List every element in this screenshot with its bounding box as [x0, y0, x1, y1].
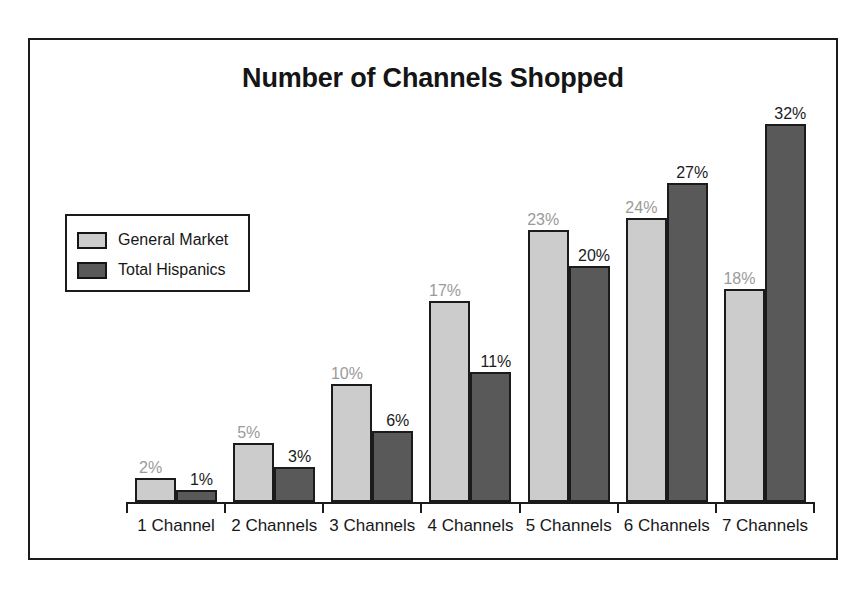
x-axis-label: 7 Channels — [716, 516, 814, 542]
bar[interactable] — [569, 266, 610, 502]
x-axis-label: 6 Channels — [618, 516, 716, 542]
bar-item[interactable]: 32% — [765, 80, 806, 502]
bar[interactable] — [667, 183, 708, 502]
bar-item[interactable]: 1% — [176, 80, 217, 502]
x-axis-line — [127, 502, 814, 504]
axis-tick — [224, 502, 226, 513]
bar-group: 10%6% — [323, 80, 421, 502]
axis-tick — [813, 502, 815, 513]
bar[interactable] — [372, 431, 413, 502]
bar-group: 17%11% — [421, 80, 519, 502]
bar-item[interactable]: 3% — [274, 80, 315, 502]
bar[interactable] — [626, 218, 667, 502]
bar[interactable] — [470, 372, 511, 502]
bar-group: 5%3% — [225, 80, 323, 502]
x-axis-label: 1 Channel — [127, 516, 225, 542]
bar-item[interactable]: 10% — [331, 80, 372, 502]
bar[interactable] — [176, 490, 217, 502]
chart-page: Number of Channels Shopped General Marke… — [0, 0, 867, 594]
axis-tick — [715, 502, 717, 513]
axis-tick — [519, 502, 521, 513]
bar-item[interactable]: 11% — [470, 80, 511, 502]
legend-swatch-total-hispanics — [77, 262, 107, 279]
bar[interactable] — [528, 230, 569, 502]
bar-item[interactable]: 6% — [372, 80, 413, 502]
bar[interactable] — [331, 384, 372, 502]
x-axis-label: 3 Channels — [323, 516, 421, 542]
bar-group: 23%20% — [520, 80, 618, 502]
bar[interactable] — [765, 124, 806, 502]
bar[interactable] — [429, 301, 470, 502]
bar-item[interactable]: 24% — [626, 80, 667, 502]
bar-item[interactable]: 17% — [429, 80, 470, 502]
x-axis — [127, 502, 814, 503]
x-axis-label: 4 Channels — [421, 516, 519, 542]
bar-group: 18%32% — [716, 80, 814, 502]
x-axis-label: 5 Channels — [520, 516, 618, 542]
bar-item[interactable]: 23% — [528, 80, 569, 502]
bar-item[interactable]: 2% — [135, 80, 176, 502]
chart-frame: Number of Channels Shopped General Marke… — [28, 38, 838, 560]
bar-item[interactable]: 18% — [724, 80, 765, 502]
bar-item[interactable]: 20% — [569, 80, 610, 502]
axis-tick — [420, 502, 422, 513]
x-axis-label: 2 Channels — [225, 516, 323, 542]
bar-group: 2%1% — [127, 80, 225, 502]
bar[interactable] — [274, 467, 315, 502]
bar-item[interactable]: 27% — [667, 80, 708, 502]
bar-item[interactable]: 5% — [233, 80, 274, 502]
bar-groups: 2%1%5%3%10%6%17%11%23%20%24%27%18%32% — [127, 80, 814, 502]
axis-tick — [322, 502, 324, 513]
bar[interactable] — [724, 289, 765, 502]
bar-group: 24%27% — [618, 80, 716, 502]
legend-swatch-general-market — [77, 232, 107, 249]
x-axis-tick-labels: 1 Channel2 Channels3 Channels4 Channels5… — [127, 516, 814, 542]
bar-value-label: 32% — [755, 105, 825, 123]
axis-tick — [126, 502, 128, 513]
axis-tick — [617, 502, 619, 513]
